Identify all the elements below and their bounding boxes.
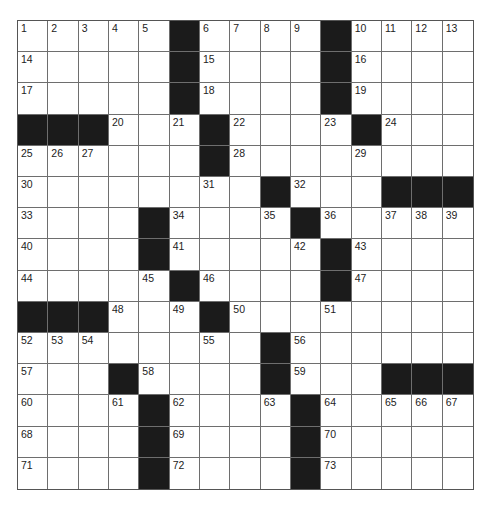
crossword-cell[interactable]: 21 — [170, 115, 200, 146]
crossword-cell[interactable]: 38 — [412, 208, 442, 239]
crossword-cell[interactable] — [352, 208, 382, 239]
crossword-cell[interactable] — [48, 395, 78, 426]
crossword-cell[interactable] — [109, 146, 139, 177]
crossword-cell[interactable] — [291, 83, 321, 114]
crossword-cell[interactable] — [139, 177, 169, 208]
crossword-cell[interactable]: 65 — [382, 395, 412, 426]
crossword-cell[interactable]: 27 — [79, 146, 109, 177]
crossword-cell[interactable]: 64 — [321, 395, 351, 426]
crossword-cell[interactable]: 2 — [48, 21, 78, 52]
crossword-cell[interactable]: 55 — [200, 333, 230, 364]
crossword-cell[interactable]: 28 — [230, 146, 260, 177]
crossword-cell[interactable] — [291, 115, 321, 146]
crossword-cell[interactable] — [291, 52, 321, 83]
crossword-cell[interactable] — [79, 83, 109, 114]
crossword-cell[interactable] — [443, 458, 473, 489]
crossword-cell[interactable] — [382, 146, 412, 177]
crossword-cell[interactable] — [79, 395, 109, 426]
crossword-cell[interactable] — [139, 52, 169, 83]
crossword-cell[interactable] — [79, 208, 109, 239]
crossword-cell[interactable] — [48, 364, 78, 395]
crossword-cell[interactable] — [170, 333, 200, 364]
crossword-cell[interactable] — [200, 364, 230, 395]
crossword-cell[interactable] — [230, 395, 260, 426]
crossword-cell[interactable] — [382, 52, 412, 83]
crossword-cell[interactable]: 47 — [352, 271, 382, 302]
crossword-cell[interactable] — [261, 458, 291, 489]
crossword-cell[interactable] — [412, 271, 442, 302]
crossword-cell[interactable]: 11 — [382, 21, 412, 52]
crossword-cell[interactable] — [48, 208, 78, 239]
crossword-cell[interactable]: 29 — [352, 146, 382, 177]
crossword-cell[interactable]: 66 — [412, 395, 442, 426]
crossword-cell[interactable]: 20 — [109, 115, 139, 146]
crossword-cell[interactable] — [139, 146, 169, 177]
crossword-cell[interactable]: 63 — [261, 395, 291, 426]
crossword-cell[interactable] — [443, 239, 473, 270]
crossword-cell[interactable] — [109, 177, 139, 208]
crossword-cell[interactable] — [48, 52, 78, 83]
crossword-cell[interactable]: 42 — [291, 239, 321, 270]
crossword-cell[interactable] — [443, 271, 473, 302]
crossword-cell[interactable] — [79, 52, 109, 83]
crossword-cell[interactable] — [79, 239, 109, 270]
crossword-cell[interactable] — [412, 239, 442, 270]
crossword-cell[interactable] — [291, 302, 321, 333]
crossword-cell[interactable] — [261, 146, 291, 177]
crossword-cell[interactable] — [412, 458, 442, 489]
crossword-cell[interactable]: 43 — [352, 239, 382, 270]
crossword-cell[interactable] — [109, 427, 139, 458]
crossword-cell[interactable] — [139, 333, 169, 364]
crossword-cell[interactable] — [48, 427, 78, 458]
crossword-cell[interactable] — [382, 302, 412, 333]
crossword-cell[interactable] — [230, 458, 260, 489]
crossword-cell[interactable]: 56 — [291, 333, 321, 364]
crossword-cell[interactable]: 13 — [443, 21, 473, 52]
crossword-cell[interactable]: 41 — [170, 239, 200, 270]
crossword-cell[interactable] — [443, 302, 473, 333]
crossword-cell[interactable]: 25 — [18, 146, 48, 177]
crossword-cell[interactable] — [352, 458, 382, 489]
crossword-cell[interactable]: 32 — [291, 177, 321, 208]
crossword-cell[interactable] — [382, 239, 412, 270]
crossword-cell[interactable] — [109, 239, 139, 270]
crossword-cell[interactable] — [200, 395, 230, 426]
crossword-cell[interactable] — [109, 52, 139, 83]
crossword-cell[interactable] — [261, 302, 291, 333]
crossword-cell[interactable] — [261, 427, 291, 458]
crossword-cell[interactable]: 19 — [352, 83, 382, 114]
crossword-cell[interactable] — [170, 146, 200, 177]
crossword-cell[interactable]: 14 — [18, 52, 48, 83]
crossword-cell[interactable]: 59 — [291, 364, 321, 395]
crossword-cell[interactable]: 48 — [109, 302, 139, 333]
crossword-cell[interactable]: 23 — [321, 115, 351, 146]
crossword-cell[interactable] — [48, 271, 78, 302]
crossword-cell[interactable]: 1 — [18, 21, 48, 52]
crossword-cell[interactable] — [230, 239, 260, 270]
crossword-cell[interactable] — [48, 239, 78, 270]
crossword-cell[interactable] — [230, 83, 260, 114]
crossword-cell[interactable] — [109, 333, 139, 364]
crossword-cell[interactable] — [79, 177, 109, 208]
crossword-cell[interactable] — [352, 427, 382, 458]
crossword-cell[interactable] — [352, 302, 382, 333]
crossword-cell[interactable] — [412, 115, 442, 146]
crossword-cell[interactable]: 69 — [170, 427, 200, 458]
crossword-cell[interactable] — [382, 427, 412, 458]
crossword-cell[interactable] — [200, 208, 230, 239]
crossword-cell[interactable] — [200, 427, 230, 458]
crossword-cell[interactable] — [261, 239, 291, 270]
crossword-cell[interactable]: 8 — [261, 21, 291, 52]
crossword-cell[interactable]: 67 — [443, 395, 473, 426]
crossword-cell[interactable]: 10 — [352, 21, 382, 52]
crossword-cell[interactable] — [230, 52, 260, 83]
crossword-cell[interactable] — [291, 146, 321, 177]
crossword-cell[interactable]: 33 — [18, 208, 48, 239]
crossword-cell[interactable]: 52 — [18, 333, 48, 364]
crossword-cell[interactable]: 17 — [18, 83, 48, 114]
crossword-cell[interactable] — [352, 364, 382, 395]
crossword-cell[interactable]: 71 — [18, 458, 48, 489]
crossword-cell[interactable] — [79, 271, 109, 302]
crossword-cell[interactable]: 31 — [200, 177, 230, 208]
crossword-cell[interactable]: 57 — [18, 364, 48, 395]
